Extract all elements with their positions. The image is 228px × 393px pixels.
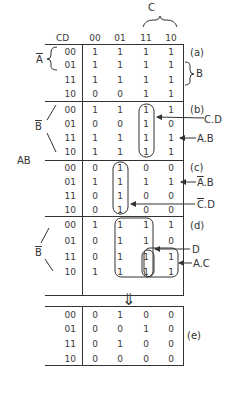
annotation-overlay	[0, 0, 228, 393]
